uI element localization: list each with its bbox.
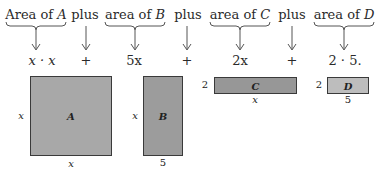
brace-c-icon [210, 22, 270, 30]
expr-plus-3: + [287, 54, 298, 67]
rectangle-a-height-label: x [18, 111, 24, 121]
rectangle-d-label: D [344, 80, 353, 91]
expr-area-d: 2 · 5. [328, 54, 361, 67]
rectangle-c: C [214, 77, 297, 94]
rectangle-c-label: C [252, 80, 260, 91]
expr-area-b: 5x [126, 54, 142, 67]
rectangle-a: A [30, 76, 112, 156]
rectangle-b-label: B [159, 111, 167, 122]
expr-plus-1: + [81, 54, 92, 67]
rectangle-c-height-label: 2 [202, 80, 208, 90]
expr-area-a: x · x [28, 54, 55, 67]
rectangle-b-height-label: x [132, 111, 138, 121]
rectangle-b-width-label: 5 [160, 158, 166, 168]
rectangle-a-width-label: x [68, 159, 74, 169]
expr-area-c: 2x [232, 54, 248, 67]
rectangle-d-height-label: 2 [316, 80, 322, 90]
rectangle-b: B [143, 76, 183, 156]
brace-a-icon [6, 22, 66, 30]
rectangle-a-label: A [67, 111, 75, 122]
rectangle-d-width-label: 5 [345, 95, 351, 105]
rectangle-c-width-label: x [252, 95, 258, 105]
brace-b-icon [105, 22, 165, 30]
rectangle-d: D [327, 77, 369, 94]
brace-d-icon [314, 22, 374, 30]
expr-plus-2: + [182, 54, 193, 67]
